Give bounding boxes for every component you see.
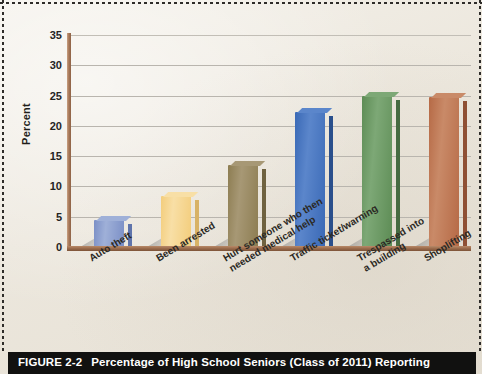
bar-top — [297, 108, 332, 113]
gridline-35 — [70, 35, 471, 36]
y-tick-label-15: 15 — [36, 151, 62, 162]
bar[interactable] — [362, 96, 396, 247]
page-border-right — [479, 0, 481, 352]
y-tick-label-20: 20 — [36, 121, 62, 132]
figure-caption-bar: FIGURE 2-2Percentage of High School Seni… — [8, 352, 476, 374]
bar-face — [362, 96, 392, 247]
bar[interactable] — [429, 97, 463, 247]
figure-caption-text: Percentage of High School Seniors (Class… — [91, 356, 430, 368]
gridline-30 — [70, 65, 471, 66]
y-tick-label-10: 10 — [36, 181, 62, 192]
scanned-page: Percent 35302520151050 Auto theftBeen ar… — [0, 0, 482, 374]
bar-side — [396, 100, 400, 247]
x-axis-category-labels: Auto theftBeen arrestedHurt someone who … — [8, 252, 474, 346]
bar-top — [163, 192, 198, 197]
y-tick-label-30: 30 — [36, 60, 62, 71]
gridline-25 — [70, 96, 471, 97]
y-tick-label-5: 5 — [36, 212, 62, 223]
y-tick-label-35: 35 — [36, 30, 62, 41]
gridline-20 — [70, 126, 471, 127]
page-border-top — [0, 2, 482, 4]
bar-top — [431, 93, 466, 98]
gridline-10 — [70, 186, 471, 187]
bar-top — [96, 216, 131, 221]
page-border-left — [2, 0, 4, 352]
bar-face — [429, 97, 459, 247]
y-axis-line — [67, 33, 71, 249]
figure-caption: FIGURE 2-2Percentage of High School Seni… — [18, 356, 430, 368]
gridline-15 — [70, 156, 471, 157]
figure-caption-number: FIGURE 2-2 — [18, 356, 82, 368]
bar-top — [364, 92, 399, 97]
plot-area — [70, 35, 471, 247]
bar-chart-figure: Percent 35302520151050 Auto theftBeen ar… — [8, 6, 474, 346]
y-tick-label-25: 25 — [36, 91, 62, 102]
bar-side — [463, 101, 467, 247]
bar-top — [230, 161, 265, 166]
